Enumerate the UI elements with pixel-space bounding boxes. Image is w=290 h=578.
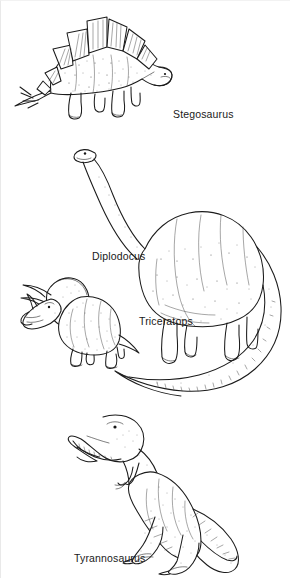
caption-triceratops: Triceratops [139,315,193,327]
caption-stegosaurus: Stegosaurus [173,108,234,120]
caption-tyrannosaurus: Tyrannosaurus [74,552,145,564]
figure-triceratops [7,269,143,369]
figure-stegosaurus [9,3,177,125]
dinosaur-illustration-plate: Stegosaurus [0,0,290,578]
caption-diplodocus: Diplodocus [92,250,145,262]
